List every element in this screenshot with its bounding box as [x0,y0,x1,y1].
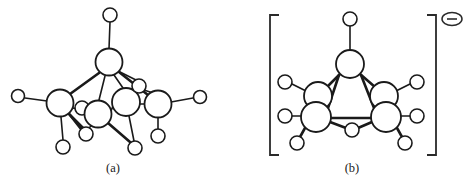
atom-right-lower-hydrogen [151,129,165,143]
atom-left-lower-terminal-hydrogen [278,109,292,123]
bond-bond-leftLowerB-bridgeH [330,122,346,128]
panel-caption: (a) [106,161,120,175]
bond-bond-rightLowerB-bridgeH [358,122,372,128]
bond-bond-leftUpperH-leftUpperB [292,84,306,91]
bond-bond-apexB-leftB [70,73,99,94]
atom-center-terminal-hydrogen [132,79,146,93]
atom-right-lower-boron [371,102,401,132]
left-bracket [270,15,279,155]
bond-bond-apexH-apexB [109,22,110,49]
bond-bond-apexB-frontB [99,76,105,100]
panel-b: (b) [270,12,462,175]
bond-bond-centerB-bottomC [129,116,134,141]
atom-bridge-hydrogen-lower [79,127,93,141]
bond-bond-leftB-bottomLH [61,117,63,140]
atom-apex-boron [96,49,123,76]
atom-apex-boron [336,50,364,78]
bond-bond-leftLowerB-axialH [300,128,305,137]
molecular-structure-figure: (a)(b) [0,0,471,187]
atom-left-upper-terminal-hydrogen [278,75,292,89]
atom-right-boron [145,91,172,118]
bond-bond-rightLowerB-axialH [397,128,402,137]
bond-bond-apexB-centerB [114,75,123,88]
right-bracket [427,15,436,155]
bond-bond-frontB-bottomC [108,123,130,142]
atom-left-axial-hydrogen [290,136,304,150]
atom-front-boron [85,101,112,128]
atom-bottom-left-hydrogen [56,140,70,154]
atom-left-terminal-hydrogen [12,90,25,103]
atom-right-axial-hydrogen [398,136,412,150]
atom-apex-terminal-hydrogen [343,12,357,26]
atom-bottom-center-hydrogen [128,141,142,155]
atom-right-terminal-hydrogen [194,91,207,104]
atom-apex-terminal-hydrogen [103,8,117,22]
atom-bridge-bottom-hydrogen [345,123,359,137]
bond-bond-leftB-lowerBridge [70,115,81,129]
atom-right-upper-terminal-hydrogen [410,75,424,89]
bond-bond-rightUpperH-rightUpperB [396,84,410,91]
atom-right-lower-terminal-hydrogen [410,109,424,123]
bond-bond-leftH-leftB [25,98,47,101]
panel-a: (a) [12,8,207,175]
diagram-canvas: (a)(b) [0,0,471,187]
panel-caption: (b) [345,161,360,175]
bond-bond-rightB-rightH [171,98,193,102]
atom-left-boron [47,90,74,117]
atom-left-lower-boron [301,102,331,132]
